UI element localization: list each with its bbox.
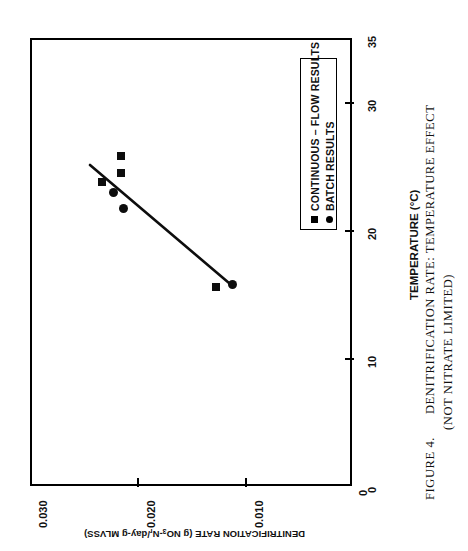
legend-label-continuous-flow: CONTINUOUS – FLOW RESULTS [309,42,321,211]
xtick-mark-20 [345,230,354,232]
xtick-mark-10 [345,358,354,360]
data-point-continuous-flow [212,283,220,291]
figure-page: 0.030 0.020 0.010 0 DENITRIFICATION RATE… [0,0,468,551]
legend-box: CONTINUOUS – FLOW RESULTS BATCH RESULTS [300,58,337,230]
rate-axis-title-text: DENITRIFICATION RATE (g NO3-Nr/day-g MLV… [84,529,305,540]
legend-content: CONTINUOUS – FLOW RESULTS BATCH RESULTS [307,42,337,223]
xtick-label-30: 30 [366,100,378,112]
xtick-label-10: 10 [366,356,378,368]
data-point-batch [228,280,237,289]
legend-item-batch: BATCH RESULTS [322,42,337,223]
data-point-continuous-flow [117,169,125,177]
xtick-label-20: 20 [366,228,378,240]
ytick-label-0.010: 0.010 [253,500,265,528]
circle-marker-icon [326,216,333,223]
figure-caption-line2: (NOT NITRATE LIMITED) [441,274,455,430]
ytick-label-0.020: 0.020 [145,500,157,528]
data-point-batch [119,204,128,213]
figure-caption-second-line: (NOT NITRATE LIMITED) [438,274,456,430]
rate-axis-title: DENITRIFICATION RATE (g NO3-Nr/day-g MLV… [84,528,305,540]
legend-item-continuous-flow: CONTINUOUS – FLOW RESULTS [307,42,322,223]
data-point-batch [109,188,118,197]
data-point-continuous-flow [98,178,106,186]
ytick-label-0.030: 0.030 [37,500,49,528]
data-point-continuous-flow [117,152,125,160]
temperature-axis-title: TEMPERATURE (°C) [408,190,420,300]
xtick-label-0: 0 [366,487,378,493]
ytick-mark-0.010 [245,478,247,487]
ytick-mark-0.020 [137,478,139,487]
figure-caption: FIGURE 4. DENITRIFICATION RATE: TEMPERAT… [420,105,438,501]
legend-label-batch: BATCH RESULTS [324,121,336,211]
xtick-mark-30 [345,102,354,104]
figure-caption-label: FIGURE 4. [423,437,437,500]
xtick-label-35: 35 [366,36,378,48]
figure-caption-line1: DENITRIFICATION RATE: TEMPERATURE EFFECT [423,105,437,415]
square-marker-icon [311,216,318,223]
